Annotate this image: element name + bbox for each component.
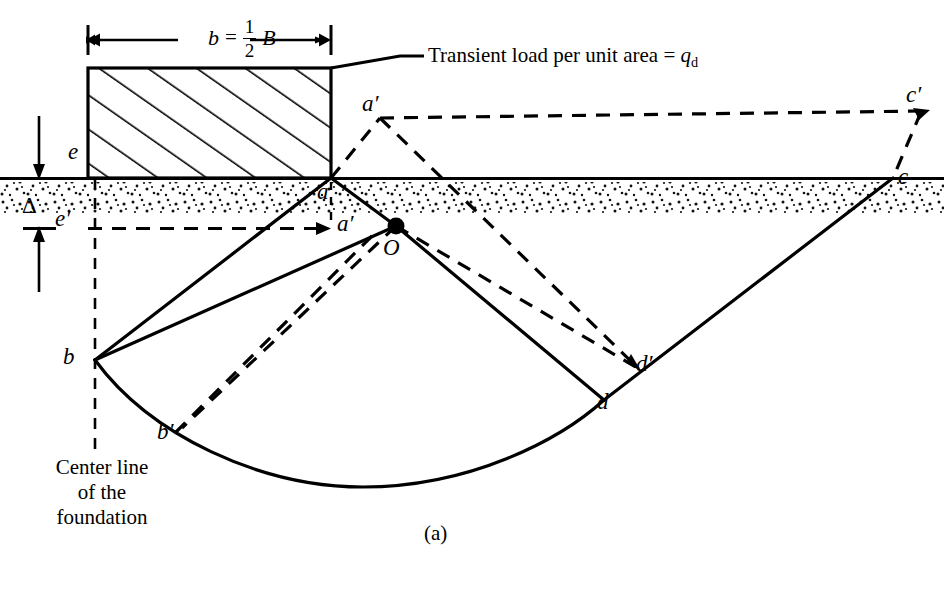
fraction-bar <box>243 38 257 40</box>
point-label-d: d <box>597 390 609 414</box>
one-half-fraction: 1 2 <box>243 17 257 60</box>
dimension-symbol-b: b <box>208 26 219 49</box>
point-label-c: c <box>898 165 908 189</box>
figure-container: b = 1 2 B Transient load per unit area =… <box>0 0 944 603</box>
settlement-delta-label: Δ <box>22 194 37 218</box>
dimension-symbol-B: B <box>262 26 275 49</box>
dashed-line-arrowheads <box>626 108 930 371</box>
transient-load-subscript: d <box>691 54 698 70</box>
transient-load-symbol: q <box>681 43 692 67</box>
fraction-numerator: 1 <box>243 17 257 36</box>
center-line-note-line1: Center line <box>32 455 172 480</box>
failure-surface-solid <box>95 178 893 487</box>
point-label-c-prime: c′ <box>906 83 921 107</box>
transient-load-text: Transient load per unit area = <box>428 43 681 67</box>
center-line-note-line2: of the <box>32 480 172 505</box>
point-label-O: O <box>383 236 400 260</box>
point-label-a: a <box>317 180 329 204</box>
point-label-a-prime-low: a′ <box>337 212 354 236</box>
load-annotation-leader <box>331 56 424 68</box>
dimension-equals: = <box>225 26 237 48</box>
transient-load-annotation: Transient load per unit area = qd <box>428 44 698 70</box>
width-dimension-label: b = 1 2 B <box>208 16 276 59</box>
figure-caption: (a) <box>424 522 447 544</box>
point-label-e: e <box>68 140 78 164</box>
foundation-block <box>88 68 331 178</box>
point-label-b: b <box>63 345 75 369</box>
point-label-d-prime: d′ <box>636 352 653 376</box>
point-label-e-prime: e′ <box>55 207 70 231</box>
point-O-marker <box>388 218 405 235</box>
point-label-b-prime: b′ <box>157 420 174 444</box>
center-line-note: Center line of the foundation <box>32 455 172 529</box>
point-label-a-prime-up: a′ <box>362 92 379 116</box>
fraction-denominator: 2 <box>243 41 257 60</box>
center-line-note-line3: foundation <box>32 505 172 530</box>
